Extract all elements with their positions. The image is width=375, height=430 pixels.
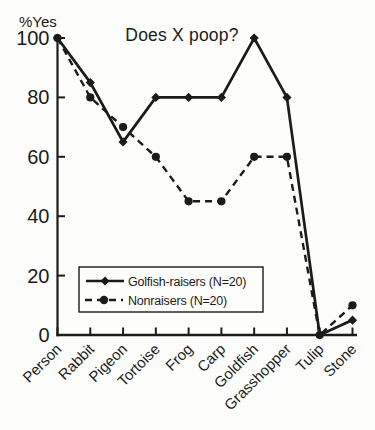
x-category-label: Frog (162, 340, 196, 374)
data-point-circle-icon (119, 123, 127, 131)
data-point-circle-icon (152, 153, 160, 161)
data-point-circle-icon (316, 331, 324, 339)
y-tick-label: 0 (38, 324, 49, 346)
legend-label-raisers: Golfish-raisers (N=20) (128, 275, 246, 289)
y-tick-label: 100 (16, 27, 49, 49)
y-tick-label: 20 (27, 265, 49, 287)
y-tick-label: 80 (27, 86, 49, 108)
data-point-circle-icon (86, 93, 94, 101)
y-tick-label: 60 (27, 146, 49, 168)
data-point-circle-icon (250, 153, 258, 161)
x-category-labels: PersonRabbitPigeonTortoiseFrogCarpGoldfi… (19, 340, 360, 414)
legend: Golfish-raisers (N=20) Nonraisers (N=20) (79, 267, 263, 312)
data-point-diamond-icon (184, 93, 193, 102)
data-point-circle-icon (348, 301, 356, 309)
data-point-circle-icon (283, 153, 291, 161)
line-chart: %Yes Does X poop? 020406080100 PersonRab… (0, 0, 375, 430)
legend-label-nonraisers: Nonraisers (N=20) (128, 294, 227, 308)
x-category-label: Stone (320, 340, 360, 380)
x-category-label: Person (19, 340, 65, 386)
data-point-diamond-icon (348, 316, 357, 325)
chart-title: Does X poop? (125, 25, 238, 45)
data-point-circle-icon (185, 197, 193, 205)
data-point-circle-icon (53, 34, 61, 42)
data-point-circle-icon (217, 197, 225, 205)
figure: %Yes Does X poop? 020406080100 PersonRab… (0, 0, 375, 430)
y-tick-labels: 020406080100 (16, 27, 49, 346)
y-tick-label: 40 (27, 205, 49, 227)
legend-marker-circle-icon (100, 296, 108, 304)
